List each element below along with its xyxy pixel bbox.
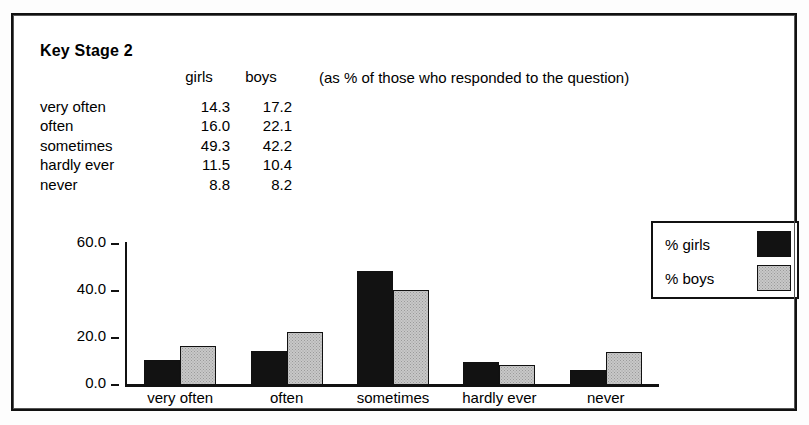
legend-swatch-boys [757,265,791,291]
bar-girls [463,362,499,386]
legend-item-girls: % girls [665,230,791,258]
bar-group [446,244,552,385]
y-tick-mark [111,384,119,386]
x-tick-label: never [553,389,659,406]
x-tick-label: very often [127,389,233,406]
legend-label-boys: % boys [665,270,714,287]
x-tick-label: often [233,389,339,406]
legend-label-girls: % girls [665,236,710,253]
x-tick-label: sometimes [340,389,446,406]
y-tick-mark [111,290,119,292]
x-tick-label: hardly ever [446,389,552,406]
y-tick-label: 40.0 [54,280,106,297]
bar-group [553,244,659,385]
legend-item-boys: % boys [665,264,791,292]
bar-girls [357,271,393,385]
bar-girls [144,360,180,385]
bar-group [127,244,233,385]
legend-swatch-girls [757,231,791,257]
y-tick-mark [111,243,119,245]
bar-girls [251,351,287,385]
bar-chart: 0.020.040.060.0 very oftenoftensometimes… [14,16,800,414]
figure-border: Key Stage 2 (as % of those who responded… [11,13,797,411]
bar-boys [499,365,535,385]
bar-boys [180,346,216,385]
y-tick-mark [111,337,119,339]
bar-boys [393,290,429,385]
figure-canvas: Key Stage 2 (as % of those who responded… [0,0,809,425]
plot-area [127,244,659,385]
y-tick-label: 60.0 [54,233,106,250]
y-tick-label: 20.0 [54,327,106,344]
y-tick-label: 0.0 [54,374,106,391]
chart-legend: % girls % boys [651,221,799,299]
bar-boys [287,332,323,385]
bar-group [340,244,446,385]
bar-girls [570,370,606,385]
bar-boys [606,352,642,385]
bar-group [233,244,339,385]
